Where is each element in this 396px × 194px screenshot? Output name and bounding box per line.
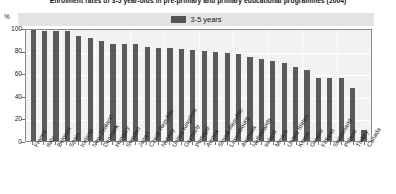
bar-slot	[62, 30, 73, 141]
y-tick-label-0: 0	[2, 139, 22, 145]
bar-italy	[42, 31, 47, 141]
bar-slot	[324, 30, 335, 141]
bar-slot	[85, 30, 96, 141]
bar-slot	[28, 30, 39, 141]
bar-new-zealand	[88, 38, 93, 141]
bar-france	[31, 30, 36, 141]
bar-czech-republic	[145, 47, 150, 141]
y-tick-label-40: 40	[2, 94, 22, 100]
y-tick-label-60: 60	[2, 71, 22, 77]
y-tick-label-20: 20	[2, 116, 22, 122]
bar-slot	[142, 30, 153, 141]
bar-slot	[358, 30, 369, 141]
bar-slot	[210, 30, 221, 141]
x-axis-tick-labels: FranceItalyBelgiumSpainIcelandNew Zealan…	[25, 145, 372, 194]
bar-slot	[39, 30, 50, 141]
y-axis-unit-label: %	[4, 13, 10, 20]
bar-slot	[130, 30, 141, 141]
bar-slot	[313, 30, 324, 141]
chart-title: Enrolment rates of 3-5 year-olds in pre-…	[0, 0, 396, 5]
y-tick-label-100: 100	[2, 26, 22, 32]
legend-inner: 3-5 years	[18, 13, 374, 26]
bar-slot	[73, 30, 84, 141]
bar-slot	[50, 30, 61, 141]
y-tick-label-80: 80	[2, 48, 22, 54]
legend-swatch-3-5-years	[171, 16, 186, 23]
bar-slot	[278, 30, 289, 141]
chart-legend: 3-5 years	[18, 13, 374, 26]
chart-figure: Enrolment rates of 3-5 year-olds in pre-…	[0, 0, 396, 194]
legend-label-3-5-years: 3-5 years	[191, 15, 222, 24]
bar-belgium	[53, 31, 58, 141]
bar-iceland	[76, 36, 81, 141]
